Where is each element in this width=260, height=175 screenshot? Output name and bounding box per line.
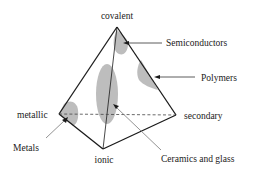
vertex-label-metallic: metallic [17,110,48,120]
edge-ionic-secondary [103,115,176,149]
polymers-arrowhead-icon [154,75,160,79]
vertex-label-ionic: ionic [95,155,114,165]
bonding-tetrahedron-diagram: covalent metallic secondary ionic Semico… [0,0,260,175]
label-polymers: Polymers [201,73,237,83]
pointer-arrows [46,41,195,150]
vertex-label-covalent: covalent [101,11,134,21]
material-regions [59,30,158,126]
polymers-region [137,60,158,90]
label-semiconductors: Semiconductors [166,38,228,48]
metals-pointer [46,121,64,138]
label-metals: Metals [13,143,39,153]
vertex-label-secondary: secondary [184,111,223,121]
label-ceramics-glass: Ceramics and glass [161,154,235,164]
